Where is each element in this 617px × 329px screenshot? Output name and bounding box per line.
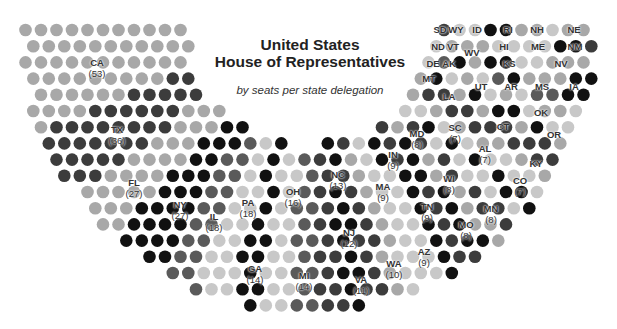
seat-dot xyxy=(190,153,203,166)
seat-dot xyxy=(112,56,125,69)
seat-dot xyxy=(453,153,466,166)
seat-dot xyxy=(151,105,164,118)
seat-dot xyxy=(298,250,311,263)
seat-dot xyxy=(384,202,397,215)
seat-dot xyxy=(174,89,187,102)
seat-dot xyxy=(306,202,319,215)
seat-dot xyxy=(50,56,63,69)
seat-dot xyxy=(236,121,249,134)
seat-dot xyxy=(213,234,226,247)
state-label-nc: NC(13) xyxy=(330,169,347,191)
seat-dot xyxy=(74,170,87,183)
seat-dot xyxy=(221,250,234,263)
seat-dot xyxy=(221,186,234,199)
seat-dot xyxy=(213,137,226,150)
state-label-wi: WI(8) xyxy=(443,173,455,195)
seat-dot xyxy=(322,299,335,312)
seat-dot xyxy=(66,56,79,69)
state-label-sc: SC(7) xyxy=(448,122,461,144)
seat-dot xyxy=(337,137,350,150)
state-code: ME xyxy=(531,41,545,52)
seat-dot xyxy=(260,170,273,183)
seat-dot xyxy=(182,137,195,150)
state-seat-count: (13) xyxy=(330,180,347,191)
seat-dot xyxy=(360,218,373,231)
seat-dot xyxy=(368,137,381,150)
seat-dot xyxy=(167,72,180,85)
seat-dot xyxy=(492,170,505,183)
state-code: NM xyxy=(568,41,583,52)
seat-dot xyxy=(213,105,226,118)
seat-dot xyxy=(275,170,288,183)
seat-dot xyxy=(322,267,335,280)
state-label-ak: AK xyxy=(442,58,456,69)
state-code: UT xyxy=(475,81,488,92)
seat-dot xyxy=(399,105,412,118)
seat-dot xyxy=(314,218,327,231)
seat-dot xyxy=(399,170,412,183)
seat-dot xyxy=(306,299,319,312)
state-label-in: IN(9) xyxy=(387,149,399,171)
state-code: CT xyxy=(497,121,510,132)
seat-dot xyxy=(167,40,180,53)
seat-dot xyxy=(360,153,373,166)
seat-dot xyxy=(120,234,133,247)
seat-dot xyxy=(329,283,342,296)
seat-dot xyxy=(577,56,590,69)
seat-dot xyxy=(500,218,513,231)
seat-dot xyxy=(151,202,164,215)
seat-dot xyxy=(360,186,373,199)
seat-dot xyxy=(244,137,257,150)
seat-dot xyxy=(74,40,87,53)
seat-dot xyxy=(438,250,451,263)
seat-dot xyxy=(329,153,342,166)
state-seat-count: (14) xyxy=(296,281,313,292)
state-code: WV xyxy=(464,47,479,58)
state-seat-count: (16) xyxy=(285,197,302,208)
seat-dot xyxy=(66,24,79,37)
state-seat-count: (9) xyxy=(376,192,391,203)
state-seat-count: (7) xyxy=(479,154,492,165)
seat-dot xyxy=(430,105,443,118)
seat-dot xyxy=(105,202,118,215)
seat-dot xyxy=(508,202,521,215)
seat-dot xyxy=(384,234,397,247)
seat-dot xyxy=(205,250,218,263)
state-code: IL xyxy=(210,211,218,222)
seat-dot xyxy=(190,218,203,231)
seat-dot xyxy=(143,186,156,199)
state-label-ky: KY xyxy=(529,158,542,169)
seat-dot xyxy=(508,137,521,150)
seat-dot xyxy=(112,186,125,199)
seat-dot xyxy=(112,89,125,102)
seat-dot xyxy=(136,234,149,247)
seat-dot xyxy=(438,218,451,231)
seat-dot xyxy=(508,40,521,53)
seat-dot xyxy=(252,218,265,231)
seat-dot xyxy=(136,202,149,215)
seat-dot xyxy=(81,121,94,134)
seat-dot xyxy=(260,202,273,215)
seat-dot xyxy=(159,24,172,37)
seat-dot xyxy=(345,153,358,166)
seat-dot xyxy=(291,234,304,247)
seat-dot xyxy=(27,40,40,53)
seat-dot xyxy=(182,105,195,118)
seat-dot xyxy=(136,137,149,150)
seat-dot xyxy=(391,121,404,134)
seat-dot xyxy=(58,170,71,183)
chart-subtitle: by seats per state delegation xyxy=(190,84,430,96)
seat-dot xyxy=(159,89,172,102)
state-code: HI xyxy=(499,41,509,52)
state-code: AZ xyxy=(418,246,431,257)
seat-dot xyxy=(376,218,389,231)
seat-dot xyxy=(260,299,273,312)
seat-dot xyxy=(89,40,102,53)
seat-dot xyxy=(252,250,265,263)
state-seat-count: (27) xyxy=(172,210,189,221)
seat-dot xyxy=(415,234,428,247)
state-code: FL xyxy=(128,177,140,188)
seat-dot xyxy=(112,24,125,37)
state-code: NV xyxy=(554,58,567,69)
state-code: NH xyxy=(530,24,544,35)
